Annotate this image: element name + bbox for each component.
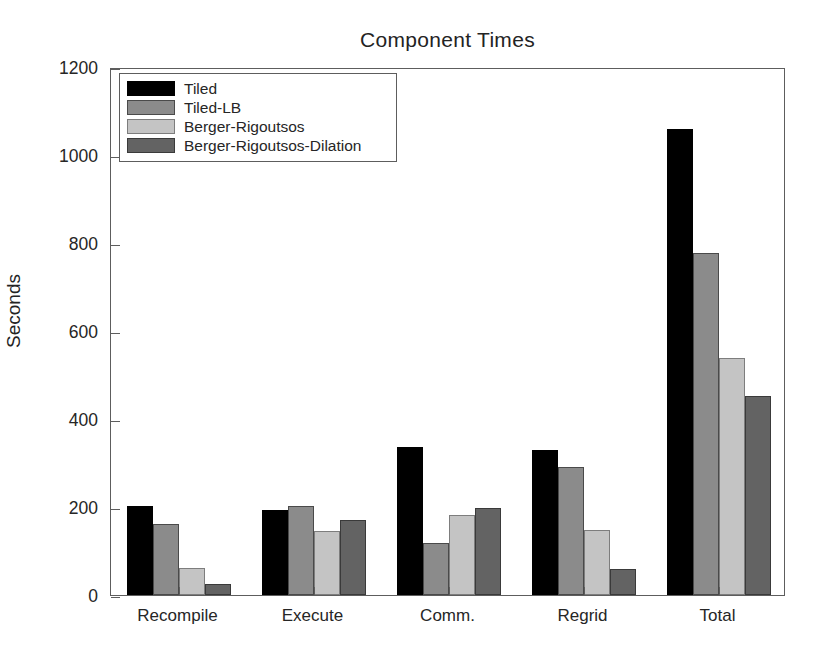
bar [667, 129, 693, 595]
x-axis-tick [584, 587, 585, 595]
legend-swatch-icon [127, 119, 175, 134]
y-axis-tick [111, 597, 120, 598]
bar [397, 447, 423, 595]
bar [475, 508, 501, 595]
bar [340, 520, 366, 595]
x-axis-tick [314, 587, 315, 595]
y-axis-tick [111, 421, 120, 422]
chart-figure: Component Times Seconds 0200400600800100… [0, 0, 815, 651]
bar [745, 396, 771, 595]
x-axis-tick-label: Regrid [557, 606, 607, 626]
bar [693, 253, 719, 595]
legend-swatch-icon [127, 138, 175, 153]
legend-item: Berger-Rigoutsos-Dilation [127, 136, 389, 155]
x-axis-tick-label: Total [700, 606, 736, 626]
x-axis-tick-label: Execute [282, 606, 343, 626]
plot-frame: TiledTiled-LBBerger-RigoutsosBerger-Rigo… [110, 68, 785, 596]
bar [610, 569, 636, 595]
legend-label: Tiled [184, 80, 217, 98]
legend-item: Tiled-LB [127, 98, 389, 117]
y-axis-tick [111, 69, 120, 70]
y-axis-tick [111, 333, 120, 334]
bar [532, 450, 558, 595]
bar [314, 531, 340, 595]
x-axis-tick-label: Recompile [137, 606, 217, 626]
legend-item: Berger-Rigoutsos [127, 117, 389, 136]
legend-label: Tiled-LB [184, 99, 241, 117]
bar [153, 524, 179, 595]
x-axis-tick [719, 587, 720, 595]
bar [558, 467, 584, 595]
bar [449, 515, 475, 595]
y-axis-tick [111, 509, 120, 510]
y-axis-tick [111, 245, 120, 246]
legend-label: Berger-Rigoutsos [184, 118, 305, 136]
legend-swatch-icon [127, 81, 175, 96]
bar [288, 506, 314, 595]
legend-swatch-icon [127, 100, 175, 115]
chart-legend: TiledTiled-LBBerger-RigoutsosBerger-Rigo… [119, 73, 397, 162]
bar [127, 506, 153, 595]
bar [584, 530, 610, 595]
bar [423, 543, 449, 595]
bar [179, 568, 205, 595]
bar [262, 510, 288, 595]
bar [205, 584, 231, 595]
legend-label: Berger-Rigoutsos-Dilation [184, 137, 361, 155]
x-axis-tick-label: Comm. [420, 606, 475, 626]
legend-item: Tiled [127, 79, 389, 98]
bar [719, 358, 745, 595]
x-axis-tick [179, 587, 180, 595]
x-axis-tick [449, 587, 450, 595]
